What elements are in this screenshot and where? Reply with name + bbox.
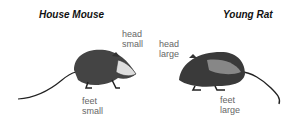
young-rat-illustration	[151, 0, 302, 132]
house-mouse-illustration	[0, 0, 151, 132]
